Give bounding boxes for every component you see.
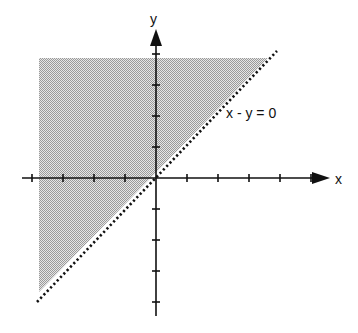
- y-axis-label: y: [150, 11, 157, 27]
- x-axis-label: x: [335, 171, 342, 187]
- inequality-graph: x y x - y = 0: [0, 0, 358, 333]
- y-axis-arrow-icon: [150, 29, 162, 46]
- shaded-region: [39, 58, 268, 292]
- x-axis-arrow-icon: [312, 172, 330, 184]
- boundary-equation-label: x - y = 0: [226, 105, 276, 121]
